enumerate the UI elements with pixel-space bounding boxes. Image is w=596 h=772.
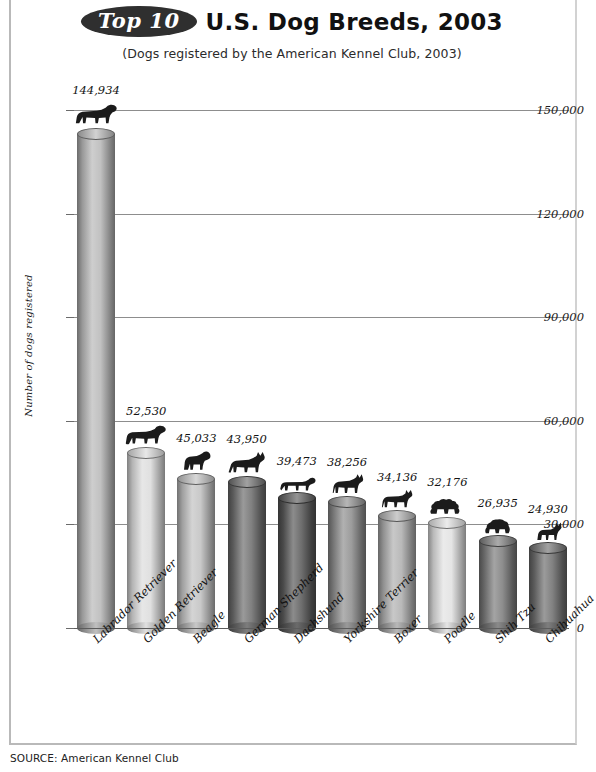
bar-body	[428, 523, 466, 628]
y-axis-tick	[66, 214, 74, 215]
bar-body	[77, 134, 115, 629]
bar-value-label: 52,530	[114, 404, 178, 418]
gridline	[74, 421, 569, 422]
bar-body	[228, 482, 266, 628]
y-axis-title: Number of dogs registered	[23, 256, 34, 436]
gridline	[74, 317, 569, 318]
y-axis-tick-label: 120,000	[518, 207, 584, 221]
bar-cap	[177, 473, 215, 485]
bar-cap	[77, 128, 115, 140]
golden-retriever-icon	[123, 422, 169, 450]
y-axis-tick-label: 150,000	[518, 103, 584, 117]
y-axis-tick	[66, 421, 74, 422]
bar-value-label: 144,934	[64, 83, 128, 97]
y-axis-tick-label: 30,000	[518, 517, 584, 531]
yorkshire-terrier-icon	[326, 473, 368, 499]
bar-cap	[328, 496, 366, 508]
beagle-icon	[176, 449, 216, 475]
gridline	[74, 110, 569, 111]
labrador-retriever-icon	[72, 101, 120, 130]
y-axis-tick-label: 60,000	[518, 414, 584, 428]
bar-cap	[127, 447, 165, 459]
bar-cap	[278, 492, 316, 504]
bar-cap	[479, 535, 517, 547]
y-axis-tick	[66, 628, 74, 629]
bar-german-shepherd[interactable]	[228, 476, 266, 628]
bar-value-label: 32,176	[415, 475, 479, 489]
gridline	[74, 214, 569, 215]
y-axis-tick	[66, 524, 74, 525]
bar-shih-tzu[interactable]	[479, 535, 517, 628]
y-axis-tick	[66, 110, 74, 111]
y-axis-tick-label: 90,000	[518, 310, 584, 324]
y-axis-tick	[66, 317, 74, 318]
bar-value-label: 24,930	[516, 502, 580, 516]
bar-labrador-retriever[interactable]	[77, 128, 115, 629]
bar-value-label: 43,950	[215, 432, 279, 446]
bar-poodle[interactable]	[428, 517, 466, 628]
bar-body	[479, 541, 517, 628]
bar-cap	[428, 517, 466, 529]
poodle-icon	[427, 493, 467, 520]
bar-value-label: 38,256	[315, 455, 379, 469]
bar-cap	[529, 542, 567, 554]
german-shepherd-icon	[224, 450, 270, 479]
source-note: SOURCE: American Kennel Club	[10, 752, 179, 764]
